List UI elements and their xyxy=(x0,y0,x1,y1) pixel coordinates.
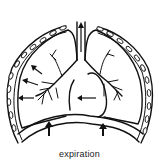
arrow-icon xyxy=(18,95,23,101)
arrow-up-icon xyxy=(45,121,53,127)
right-lung xyxy=(85,30,142,124)
bronchial-tree xyxy=(36,50,122,104)
expiration-diagram xyxy=(0,0,159,145)
trachea xyxy=(77,22,85,60)
diagram-caption: expiration xyxy=(0,149,159,159)
heart xyxy=(69,73,106,117)
arrow-icon xyxy=(22,78,28,84)
arrow-left-icon xyxy=(77,95,82,101)
diaphragm xyxy=(18,115,143,142)
arrow-up-icon xyxy=(78,22,84,28)
